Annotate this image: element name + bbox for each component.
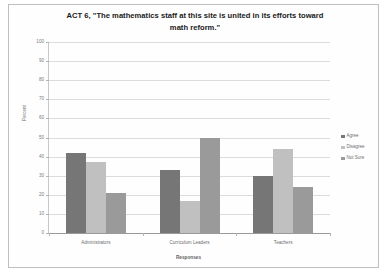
x-axis-category-label: Administrators xyxy=(81,240,110,245)
chart-title-line-1: ACT 6, "The mathematics staff at this si… xyxy=(67,11,324,20)
bar[interactable] xyxy=(200,138,220,234)
y-axis-tick-label: 10 xyxy=(39,212,44,217)
y-axis-tick xyxy=(46,99,49,100)
legend-item[interactable]: Not Sure xyxy=(341,154,365,163)
legend-item[interactable]: Agree xyxy=(341,132,365,141)
y-axis-title: Percent xyxy=(22,105,27,121)
bar[interactable] xyxy=(160,170,180,233)
x-axis-category-label: Teachers xyxy=(274,240,293,245)
legend-label: Not Sure xyxy=(347,156,365,161)
y-axis-tick-label: 70 xyxy=(39,97,44,102)
x-axis-tick xyxy=(49,233,50,236)
chart-title: ACT 6, "The mathematics staff at this si… xyxy=(39,10,351,33)
legend-label: Agree xyxy=(347,134,359,139)
bar-group xyxy=(253,42,313,233)
bar[interactable] xyxy=(106,193,126,233)
figure-frame: ACT 6, "The mathematics staff at this si… xyxy=(8,4,379,268)
y-axis-tick-label: 60 xyxy=(39,116,44,121)
legend-label: Disagree xyxy=(347,145,365,150)
y-axis-tick-label: 20 xyxy=(39,193,44,198)
y-axis-tick xyxy=(46,157,49,158)
y-axis-tick xyxy=(46,195,49,196)
y-axis-tick xyxy=(46,214,49,215)
y-axis-tick-label: 30 xyxy=(39,174,44,179)
y-axis-tick-label: 90 xyxy=(39,59,44,64)
y-axis-tick-label: 80 xyxy=(39,78,44,83)
y-axis-tick xyxy=(46,61,49,62)
y-axis-tick xyxy=(46,176,49,177)
y-axis-tick xyxy=(46,42,49,43)
bar[interactable] xyxy=(273,149,293,233)
legend-swatch-icon xyxy=(341,135,345,139)
bar[interactable] xyxy=(253,176,273,233)
plot-area: 0102030405060708090100AdministratorsCurr… xyxy=(48,42,330,234)
x-axis-tick xyxy=(236,233,237,236)
x-axis-tick xyxy=(330,233,331,236)
x-axis-category-label: Curriculum Leaders xyxy=(169,240,209,245)
y-axis-tick xyxy=(46,118,49,119)
bar[interactable] xyxy=(293,187,313,233)
chart-legend: AgreeDisagreeNot Sure xyxy=(341,132,365,165)
legend-swatch-icon xyxy=(341,157,345,161)
y-axis-tick xyxy=(46,138,49,139)
legend-item[interactable]: Disagree xyxy=(341,143,365,152)
y-axis-tick xyxy=(46,80,49,81)
bar[interactable] xyxy=(66,153,86,233)
x-axis-title: Responses xyxy=(48,255,329,260)
bar[interactable] xyxy=(86,162,106,233)
chart-title-line-2: math reform." xyxy=(170,23,220,32)
legend-swatch-icon xyxy=(341,146,345,150)
y-axis-tick-label: 100 xyxy=(36,40,44,45)
bar[interactable] xyxy=(180,201,200,233)
bar-group xyxy=(66,42,126,233)
y-axis-tick-label: 40 xyxy=(39,155,44,160)
y-axis-tick-label: 0 xyxy=(41,231,44,236)
x-axis-tick xyxy=(143,233,144,236)
y-axis-tick-label: 50 xyxy=(39,136,44,141)
bar-group xyxy=(160,42,220,233)
